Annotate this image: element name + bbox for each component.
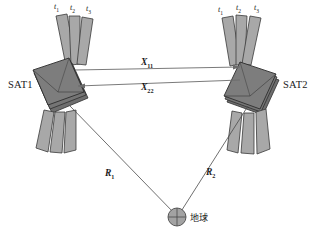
- sat2-body: [224, 62, 279, 115]
- sat1-tick-1-sub: 1: [56, 7, 59, 13]
- sat1-lower-panels: [36, 110, 76, 153]
- sat1-upper-panels: [56, 14, 93, 66]
- sat2-panel-tick-2: t2: [236, 3, 241, 14]
- x11-sub: 11: [147, 62, 153, 69]
- sat2-label: SAT2: [283, 79, 308, 90]
- sat2-lower-panels: [227, 109, 270, 154]
- sat1-label: SAT1: [8, 79, 33, 90]
- range-label-r1: R1: [105, 168, 114, 180]
- sat2-panel-tick-1: t1: [218, 5, 223, 16]
- earth-symbol: [168, 208, 186, 226]
- sat1-panel-tick-3: t3: [86, 4, 91, 15]
- r1-sub: 1: [111, 173, 114, 180]
- link-label-x11: X11: [141, 57, 153, 69]
- sat2-tick-3-sub: 3: [256, 8, 259, 14]
- sat1-tick-3-sub: 3: [88, 9, 91, 15]
- earth-label: 地球: [190, 211, 208, 224]
- sat1-tick-2-sub: 2: [72, 8, 75, 14]
- inter-satellite-links: [75, 65, 240, 89]
- sat2-upper-panels: [222, 15, 261, 66]
- sat2-tick-2-sub: 2: [238, 8, 241, 14]
- sat1-panel-tick-1: t1: [54, 2, 59, 13]
- range-vectors: [70, 106, 248, 214]
- r2-sub: 2: [212, 172, 215, 179]
- sat1-panel-tick-2: t2: [70, 3, 75, 14]
- x22-sub: 22: [147, 87, 153, 94]
- sat2-panel-tick-3: t3: [254, 3, 259, 14]
- range-label-r2: R2: [206, 167, 215, 179]
- link-label-x22: X22: [141, 82, 154, 94]
- satellite-link-diagram: [0, 0, 314, 234]
- sat2-tick-1-sub: 1: [220, 10, 223, 16]
